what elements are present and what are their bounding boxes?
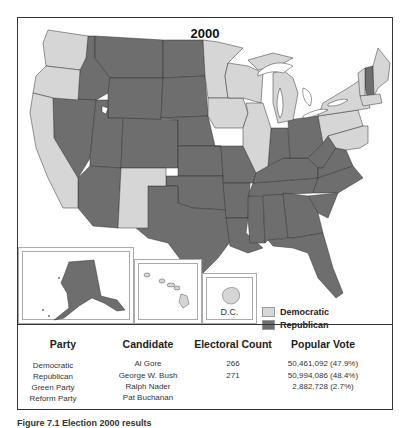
democratic-swatch [262,307,275,317]
dc-label: D.C. [203,307,256,317]
figure-caption: Figure 7.1 Election 2000 results [17,418,152,428]
legend-label-republican: Republican [280,320,329,330]
legend-item-republican: Republican [262,319,329,331]
hawaii-inset [134,259,202,324]
election-map-figure: 2000 [17,17,393,410]
cell-popular: 2,882,728 (2.7%) [268,382,378,391]
map-legend: Democratic Republican [262,306,329,332]
cell-party: Green Party [18,383,88,392]
legend-label-democratic: Democratic [280,307,329,317]
hawaii-shape [135,260,203,325]
cell-party: Democratic [18,361,88,370]
legend-item-democratic: Democratic [262,306,329,318]
cell-popular: 50,461,092 (47.9%) [268,359,378,368]
cell-party: Reform Party [18,394,88,403]
cell-candidate: Pat Buchanan [98,393,198,402]
cell-party: Republican [18,372,88,381]
header-party: Party [28,338,98,350]
table-divider [18,324,392,325]
header-popular-vote: Popular Vote [268,338,378,350]
cell-popular: 50,994,086 (48.4%) [268,371,378,380]
dc-shape [203,274,258,325]
dc-inset: D.C. [202,273,257,324]
republican-swatch [262,320,275,330]
cell-candidate: Ralph Nader [98,382,198,391]
alaska-shape [19,248,135,325]
alaska-inset [18,247,134,324]
